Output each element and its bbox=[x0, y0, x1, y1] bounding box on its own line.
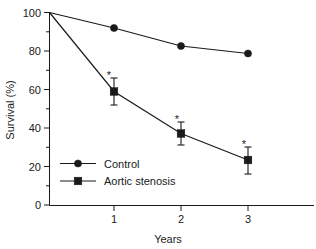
significance-star-year1: * bbox=[107, 69, 112, 81]
y-tick-label-100: 100 bbox=[23, 7, 41, 19]
control-point-year2 bbox=[177, 42, 184, 49]
series-aortic-stenosis bbox=[50, 13, 252, 175]
aortic-point-year1 bbox=[110, 88, 118, 96]
y-axis-minor-ticks bbox=[46, 32, 50, 186]
legend-label-aortic: Aortic stenosis bbox=[104, 175, 176, 187]
x-tick-label-3: 3 bbox=[245, 213, 251, 225]
aortic-stenosis-line bbox=[50, 13, 249, 161]
chart-legend: Control Aortic stenosis bbox=[60, 158, 176, 188]
significance-markers: * * * bbox=[107, 69, 247, 150]
y-tick-label-40: 40 bbox=[29, 122, 41, 134]
significance-star-year2: * bbox=[175, 113, 180, 125]
aortic-point-year3 bbox=[244, 156, 252, 164]
y-tick-label-80: 80 bbox=[29, 45, 41, 57]
survival-chart-figure: 100 80 60 40 20 0 1 2 3 Years Survival (… bbox=[0, 0, 316, 249]
aortic-point-year2 bbox=[177, 130, 185, 138]
legend-marker-aortic bbox=[74, 177, 82, 185]
legend-entry-control: Control bbox=[60, 158, 139, 170]
y-tick-label-20: 20 bbox=[29, 161, 41, 173]
control-point-year1 bbox=[110, 24, 117, 31]
x-tick-label-2: 2 bbox=[178, 213, 184, 225]
chart-canvas: 100 80 60 40 20 0 1 2 3 Years Survival (… bbox=[0, 0, 316, 249]
x-axis-title: Years bbox=[154, 233, 182, 245]
y-tick-label-0: 0 bbox=[35, 199, 41, 211]
legend-label-control: Control bbox=[104, 158, 139, 170]
x-axis-ticks bbox=[114, 206, 248, 212]
x-axis-tick-labels: 1 2 3 bbox=[111, 213, 251, 225]
significance-star-year3: * bbox=[242, 138, 247, 150]
x-tick-label-1: 1 bbox=[111, 213, 117, 225]
control-line bbox=[50, 13, 249, 54]
axes-group bbox=[50, 12, 315, 206]
y-axis-tick-labels: 100 80 60 40 20 0 bbox=[23, 7, 41, 212]
y-tick-label-60: 60 bbox=[29, 84, 41, 96]
control-point-year3 bbox=[244, 50, 251, 57]
legend-marker-control bbox=[74, 160, 81, 167]
y-axis-title: Survival (%) bbox=[4, 80, 16, 139]
legend-entry-aortic-stenosis: Aortic stenosis bbox=[60, 175, 176, 187]
